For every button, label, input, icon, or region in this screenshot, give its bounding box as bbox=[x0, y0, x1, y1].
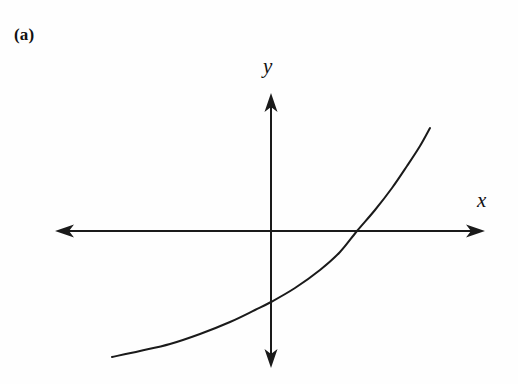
graph-canvas bbox=[0, 0, 518, 384]
x-axis-label: x bbox=[477, 190, 486, 211]
panel-label: (a) bbox=[14, 26, 34, 43]
y-axis-label: y bbox=[263, 56, 272, 77]
figure-panel: (a) y x bbox=[0, 0, 518, 384]
